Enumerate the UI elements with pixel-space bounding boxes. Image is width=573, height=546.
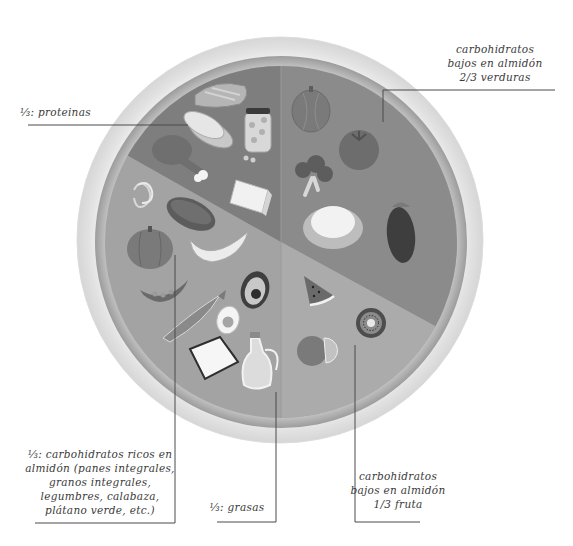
label-vegetables: carbohidratos bajos en almidón 2/3 verdu… xyxy=(430,42,560,84)
label-fruit: carbohidratos bajos en almidón 1/3 fruta xyxy=(328,469,468,511)
food-orange-icon xyxy=(297,336,338,366)
food-kiwi-icon xyxy=(356,308,386,338)
label-fats: ⅓: grasas xyxy=(200,500,274,514)
label-starches: ⅓: carbohidratos ricos en almidón (panes… xyxy=(25,447,175,517)
food-tomato-icon xyxy=(339,130,379,170)
label-proteins: ⅓: proteinas xyxy=(20,105,110,119)
